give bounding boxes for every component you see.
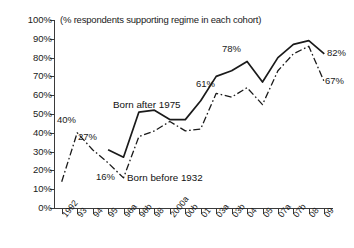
plot-area: (% respondents supporting regime in each…	[0, 0, 354, 248]
point-label-67: 67%	[325, 75, 344, 86]
point-label-40: 40%	[57, 114, 76, 125]
series-line-born-before-1932	[62, 46, 325, 181]
point-label-16: 16%	[96, 171, 115, 182]
point-label-78: 78%	[222, 43, 241, 54]
series-layer	[0, 0, 354, 248]
point-label-61: 61%	[196, 78, 215, 89]
legend-label-born-after-1975: Born after 1975	[113, 99, 181, 110]
legend-label-born-before-1932: Born before 1932	[127, 172, 203, 183]
chart-container: (% respondents supporting regime in each…	[0, 0, 354, 248]
point-label-82: 82%	[327, 47, 346, 58]
point-label-27: 27%	[78, 131, 97, 142]
